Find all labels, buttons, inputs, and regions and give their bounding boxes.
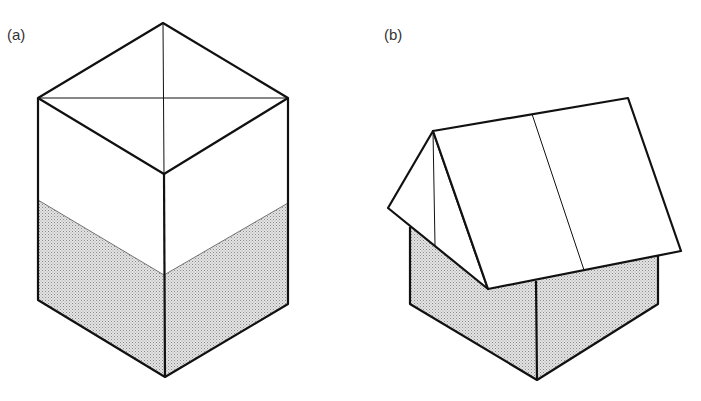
diagram-canvas xyxy=(0,0,701,401)
front-edge xyxy=(164,174,165,377)
top-diagonal-vertical xyxy=(163,23,164,174)
panel-label-a: (a) xyxy=(7,26,25,43)
panel-label-b: (b) xyxy=(384,26,402,43)
figure-a-cuboid xyxy=(38,23,288,377)
figure-b-house xyxy=(388,98,681,380)
shaded-left-face xyxy=(38,200,165,377)
wall-front-edge xyxy=(536,281,537,380)
shaded-right-face xyxy=(164,203,288,377)
